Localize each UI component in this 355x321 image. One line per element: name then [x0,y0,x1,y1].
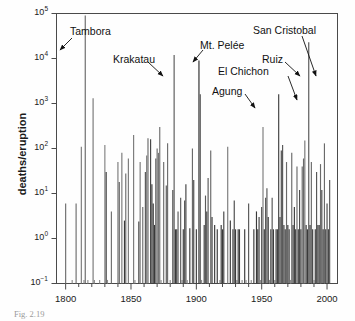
annotation-label-el-chichon: El Chichon [218,66,269,77]
annotation-label-san-cristobal: San Cristobal [253,25,316,36]
annotation-label-tambora: Tambora [70,26,111,37]
annotation-leader-lines [60,36,316,108]
arrow-el-chichon [288,76,297,100]
annotation-label-mt-pelee: Mt. Pelée [200,40,244,51]
arrow-tambora [60,38,72,50]
annotation-label-agung: Agung [212,86,242,97]
annotation-label-ruiz: Ruiz [262,54,283,65]
arrow-agung [245,94,255,108]
figure-volcanic-deaths-chart: deaths/eruption 10510410310210110010−1 1… [0,0,355,321]
plot-canvas [0,0,355,321]
figure-caption: Fig. 2.19 [14,309,44,319]
annotation-label-krakatau: Krakatau [113,54,155,65]
arrow-mt-pelee [193,50,203,62]
arrow-ruiz [285,62,300,76]
